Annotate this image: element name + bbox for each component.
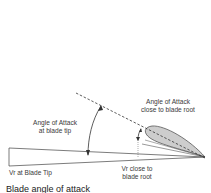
arrow-head-top bbox=[98, 105, 103, 111]
blade-diagram bbox=[0, 0, 211, 193]
aoa-tip-line2: at blade tip bbox=[22, 127, 88, 135]
vr-root-line2: blade root bbox=[113, 173, 161, 181]
aoa-root-line2: close to blade root bbox=[126, 106, 210, 114]
arrow-head-bottom bbox=[86, 150, 90, 156]
aoa-tip-arc bbox=[88, 106, 101, 155]
airfoil-section bbox=[145, 126, 205, 157]
figure-caption: Blade angle of attack bbox=[6, 184, 90, 193]
aoa-root-label: Angle of Attack close to blade root bbox=[126, 98, 210, 114]
vr-tip-label: Vr at Blade Tip bbox=[9, 169, 52, 177]
aoa-tip-label: Angle of Attack at blade tip bbox=[22, 119, 88, 135]
vr-root-line1: Vr close to bbox=[113, 165, 161, 173]
vr-root-label: Vr close to blade root bbox=[113, 165, 161, 181]
aoa-root-line1: Angle of Attack bbox=[126, 98, 210, 106]
aoa-tip-line1: Angle of Attack bbox=[22, 119, 88, 127]
